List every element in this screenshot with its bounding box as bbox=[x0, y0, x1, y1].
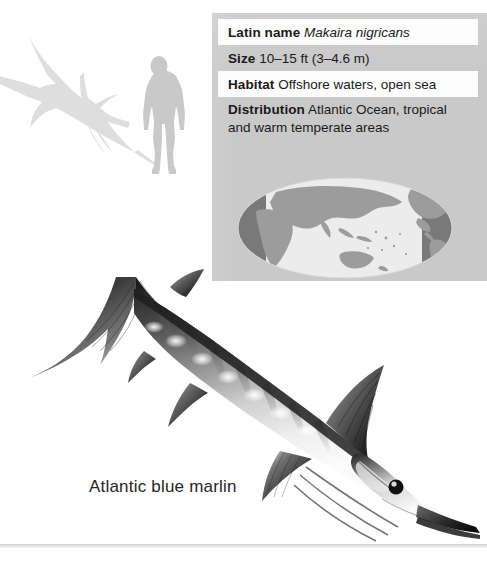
second-dorsal-fin bbox=[170, 269, 204, 297]
info-row-label: Distribution bbox=[228, 102, 305, 117]
info-row-habitat: Habitat Offshore waters, open sea bbox=[218, 71, 478, 97]
info-row-label: Habitat bbox=[228, 77, 274, 92]
second-anal-fin bbox=[168, 383, 208, 427]
info-row-label: Latin name bbox=[228, 25, 300, 40]
info-row-value: Offshore waters, open sea bbox=[278, 77, 436, 92]
info-row-distribution: Distribution Atlantic Ocean, tropical an… bbox=[218, 97, 478, 139]
info-row-value: Makaira nigricans bbox=[304, 25, 410, 40]
size-comparison-diagram bbox=[0, 18, 210, 183]
footer-divider bbox=[0, 544, 487, 548]
eye bbox=[389, 480, 404, 495]
fish-silhouette-shape bbox=[0, 30, 162, 168]
world-distribution-map bbox=[236, 176, 454, 280]
human-silhouette-shape bbox=[143, 56, 185, 174]
illustration-caption: Atlantic blue marlin bbox=[89, 477, 237, 497]
info-row-size: Size 10–15 ft (3–4.6 m) bbox=[218, 45, 478, 71]
atlantic-blue-marlin-illustration bbox=[0, 255, 487, 555]
species-info-panel: Latin name Makaira nigricans Size 10–15 … bbox=[212, 13, 487, 281]
info-row-label: Size bbox=[228, 51, 255, 66]
bill-rostrum bbox=[416, 505, 480, 539]
info-row-latin-name: Latin name Makaira nigricans bbox=[218, 19, 478, 45]
anal-fin bbox=[128, 351, 156, 383]
info-row-value: 10–15 ft (3–4.6 m) bbox=[259, 51, 369, 66]
